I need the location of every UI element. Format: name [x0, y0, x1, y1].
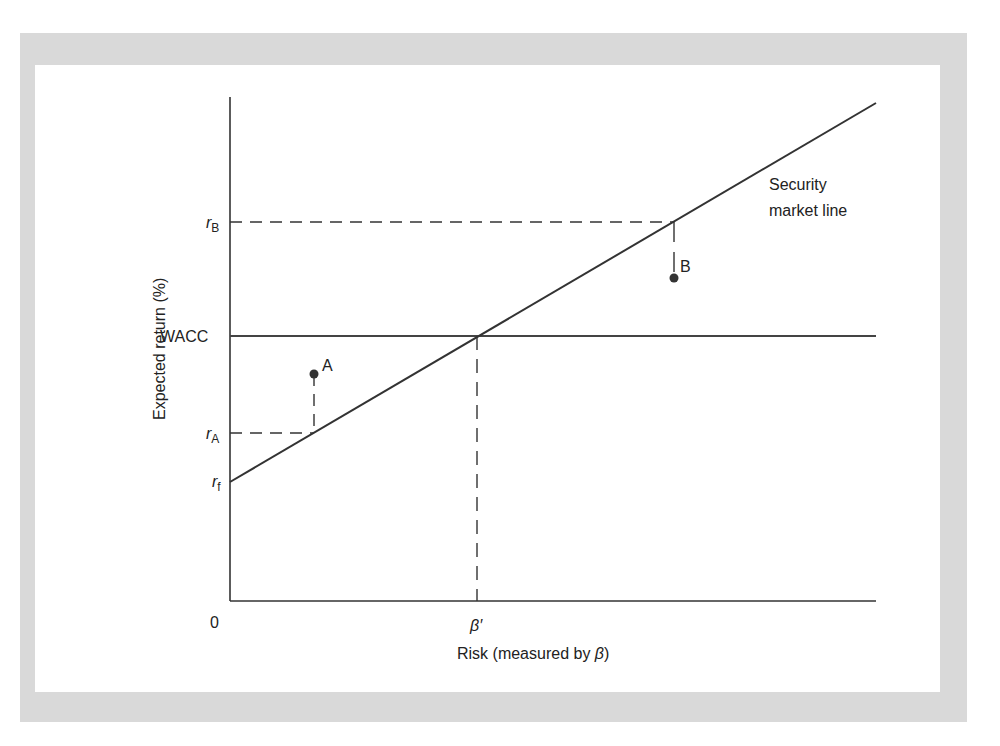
x-axis-title-suffix: )	[604, 645, 609, 662]
security-market-line	[230, 103, 876, 482]
xtick-beta-prime: β′	[469, 617, 483, 634]
point-b-marker	[670, 274, 679, 283]
ytick-rf: rf	[212, 473, 221, 494]
ytick-rf-sub: f	[217, 480, 221, 494]
point-b-label: B	[680, 258, 691, 275]
x-axis-title: Risk (measured by β)	[457, 645, 609, 662]
sml-chart: A B Security market line rB WACC rA rf 0…	[0, 0, 1000, 746]
ytick-ra: rA	[206, 425, 219, 446]
xtick-origin: 0	[210, 614, 219, 631]
x-axis-title-beta: β	[594, 645, 604, 662]
ytick-rb-sub: B	[211, 221, 219, 235]
sml-label-line1: Security	[769, 176, 827, 193]
x-axis-title-prefix: Risk (measured by	[457, 645, 595, 662]
point-a-label: A	[322, 357, 333, 374]
y-axis-title: Expected return (%)	[151, 278, 168, 420]
ytick-rb: rB	[206, 214, 219, 235]
point-a-marker	[310, 370, 319, 379]
ytick-ra-sub: A	[211, 432, 219, 446]
sml-label-line2: market line	[769, 202, 847, 219]
